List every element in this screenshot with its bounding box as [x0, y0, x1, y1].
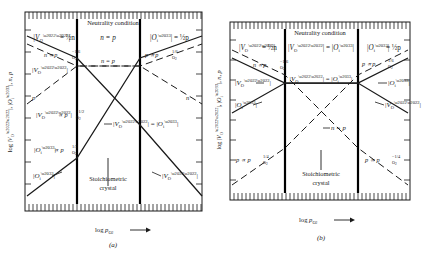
hatch-ticks-top-a — [29, 12, 201, 19]
hatch-ticks-bottom-b — [234, 193, 406, 200]
hatch-ticks-bottom-a — [29, 204, 201, 211]
svg-text:p ∝ p: p ∝ p — [361, 60, 375, 67]
figure-kroger-vink-diagram: Neutrality condition |VO\u2022\u2022| = … — [0, 0, 430, 253]
slope-label-p-b: p ∝ p O2 1/6 — [361, 58, 394, 70]
region-label-right-a: |Oi\u2033| = ½p — [150, 33, 189, 42]
y-axis-label-b: log |VO\u2022\u2022|, |Oi\u2033|, n, p — [215, 70, 224, 149]
region-label-middle-a: n = p — [100, 34, 116, 42]
panel-b-svg: Neutrality condition |VO\u2022\u2022| = … — [215, 0, 430, 253]
panel-a-svg: Neutrality condition |VO\u2022\u2022| = … — [0, 0, 215, 253]
svg-text:1/4: 1/4 — [263, 154, 269, 159]
x-axis-label-a: log pO2 — [95, 226, 151, 235]
svg-text:−1/6: −1/6 — [280, 59, 289, 64]
svg-text:O2: O2 — [76, 115, 81, 121]
svg-text:O2: O2 — [72, 55, 77, 61]
label-interstitial-right-b: |Oi\u2033| — [378, 78, 410, 87]
label-vacancy-left-b: |VO\u2022\u2022| — [235, 78, 271, 87]
slope-label-n-a: n ∝ p O2 −1/6 — [44, 49, 81, 61]
svg-text:O2: O2 — [263, 160, 268, 166]
svg-text:log |VO\u2022\u2022|, |Oi\u203: log |VO\u2022\u2022|, |Oi\u2033|, n, p — [215, 70, 224, 149]
svg-text:= ½n: = ½n — [262, 44, 277, 52]
svg-text:n ∝ p: n ∝ p — [253, 61, 266, 68]
power-label-interstitial-a: |Oi\u2033| ∝ p O2 1/2 — [34, 144, 78, 156]
svg-text:−1/4: −1/4 — [392, 154, 401, 159]
panel-a: Neutrality condition |VO\u2022\u2022| = … — [0, 0, 215, 253]
svg-text:O2: O2 — [172, 55, 177, 61]
svg-text:|Oi\u2033|: |Oi\u2033| — [33, 171, 55, 180]
power-label-hole-right-b: p ∝ p O2 −1/4 — [364, 154, 401, 166]
panel-b: Neutrality condition |VO\u2022\u2022| = … — [215, 0, 430, 253]
label-vacancy-bottom-a: |VO\u2022\u2022| — [152, 171, 198, 180]
svg-text:p ∝ p: p ∝ p — [144, 51, 158, 58]
svg-text:O2: O2 — [280, 65, 285, 71]
svg-text:−1/2: −1/2 — [76, 109, 84, 114]
svg-text:1/6: 1/6 — [172, 49, 178, 54]
svg-text:O2: O2 — [392, 160, 397, 166]
slope-label-n-b: n ∝ p O2 −1/6 — [253, 59, 289, 71]
label-vacancy-left-a: |VO\u2022\u2022| — [32, 65, 68, 74]
svg-text:|Oi\u2033|: |Oi\u2033| — [34, 145, 56, 154]
svg-text:|VO\u2022\u2022|: |VO\u2022\u2022| — [235, 78, 271, 87]
region-label-middle-b: |VO\u2022\u2022| = |Oi\u2033| — [288, 43, 354, 52]
region-label-left-a-text: = ½n — [60, 34, 75, 42]
svg-text:O2: O2 — [388, 64, 393, 70]
svg-text:n = p: n = p — [331, 124, 346, 131]
svg-text:p ∝ p: p ∝ p — [364, 156, 380, 163]
label-hole-a: p — [31, 94, 36, 101]
region-label-left-b: |VO\u2022\u2022| = ½n — [239, 43, 277, 52]
stoichiometric-label-line1-a: Stoichiometric — [89, 175, 127, 182]
svg-text:−1/6: −1/6 — [72, 49, 81, 54]
svg-text:∝ p: ∝ p — [54, 146, 64, 153]
stoichiometric-label-line2-a: crystal — [99, 184, 116, 191]
mid-equality-label-b: |VO\u2022\u2022| = |Oi\u2033| — [290, 74, 353, 83]
y-axis-label-a: log |VO\u2022\u2022|, |Oi\u2033|, n, p — [5, 72, 14, 152]
region-label-left-a: |VO\u2022\u2022| = ½n — [33, 33, 75, 42]
label-interstitial-left-b: |Oi\u2033| — [235, 100, 262, 109]
region-label-right-a-text: = ½p — [174, 34, 189, 42]
caption-a: (a) — [109, 241, 118, 249]
svg-text:|VO\u2022\u2022|: |VO\u2022\u2022| — [162, 171, 198, 180]
x-axis-label-b: log pO2 — [299, 216, 355, 225]
center-crossing-label-b: n = p — [323, 124, 346, 131]
hatch-ticks-top-b — [234, 22, 406, 29]
svg-text:p ∝ p: p ∝ p — [235, 156, 251, 163]
label-electron-a: n — [186, 94, 190, 101]
power-label-vacancy-a: |VO\u2022\u2022| ∝ p O2 −1/2 — [36, 109, 84, 121]
stoichiometric-label-line1-b: Stoichiometric — [302, 170, 340, 177]
svg-text:1/6: 1/6 — [388, 58, 394, 63]
neutrality-title-b: Neutrality condition — [294, 29, 346, 36]
region-label-right-b: |Oi\u2033| = ½p — [367, 43, 401, 52]
svg-text:log pO2: log pO2 — [95, 226, 114, 235]
stoichiometric-label-line2-b: crystal — [312, 179, 329, 186]
svg-text:O2: O2 — [72, 150, 77, 156]
label-vacancy-right-b: |VO\u2022\u2022| — [375, 100, 421, 109]
neutrality-title-a: Neutrality condition — [87, 19, 139, 26]
svg-text:log pO2: log pO2 — [299, 216, 318, 225]
svg-text:∝ p: ∝ p — [58, 111, 68, 118]
power-label-hole-left-b: p ∝ p O2 1/4 — [235, 154, 269, 166]
svg-text:|Oi\u2033|: |Oi\u2033| — [388, 78, 410, 87]
mid-horizontal-label-a: n = p — [101, 57, 115, 64]
svg-text:|VO\u2022\u2022| = |Oi\u2033|: |VO\u2022\u2022| = |Oi\u2033| — [113, 119, 178, 128]
svg-text:|VO\u2022\u2022|: |VO\u2022\u2022| — [385, 100, 421, 109]
svg-text:|Oi\u2033|: |Oi\u2033| — [150, 33, 172, 42]
caption-b: (b) — [317, 234, 326, 242]
svg-text:= ½p: = ½p — [386, 44, 401, 52]
svg-text:n ∝ p: n ∝ p — [44, 51, 57, 58]
svg-text:log |VO\u2022\u2022|, |Oi\u203: log |VO\u2022\u2022|, |Oi\u2033|, n, p — [5, 72, 14, 152]
svg-text:1/2: 1/2 — [72, 144, 78, 149]
